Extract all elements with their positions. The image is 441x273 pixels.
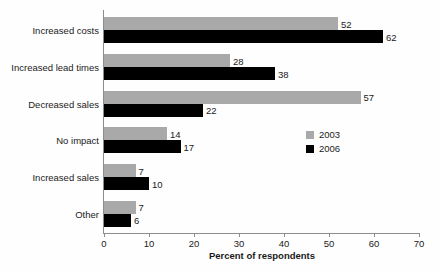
x-axis-tick-label: 20 [189,238,200,249]
category-label: Increased costs [32,25,99,36]
x-axis-title: Percent of respondents [104,250,420,261]
x-axis-tick [194,233,195,237]
bar-value-label: 52 [341,18,352,29]
x-axis-tick-label: 70 [414,238,425,249]
category-label: Increased lead times [11,62,99,73]
bar-2006: 62 [104,30,383,43]
bar-value-label: 10 [152,178,163,189]
chart-category-row: Other76 [104,201,419,227]
bar-value-label: 38 [278,68,289,79]
plot-area: Increased costs5262Increased lead times2… [104,12,419,232]
category-label: No impact [56,135,99,146]
legend-swatch-2003 [306,131,314,139]
x-axis-tick [284,233,285,237]
bar-value-label: 6 [134,215,139,226]
x-axis-tick [104,233,105,237]
x-axis-tick [149,233,150,237]
category-label: Other [75,208,99,219]
x-axis-tick-label: 10 [144,238,155,249]
x-axis-tick [419,233,420,237]
legend-item-2003: 2003 [306,129,340,141]
x-axis-tick-label: 0 [101,238,106,249]
x-axis-line [104,233,420,234]
legend-label-2006: 2006 [319,144,340,154]
x-axis-tick-label: 50 [324,238,335,249]
x-axis-tick-label: 40 [279,238,290,249]
bar-value-label: 57 [364,92,375,103]
bar-chart: Increased costs5262Increased lead times2… [0,0,441,273]
category-label: Increased sales [32,172,99,183]
bar-value-label: 14 [170,128,181,139]
chart-category-row: Increased costs5262 [104,17,419,43]
bar-value-label: 17 [184,141,195,152]
bar-2006: 38 [104,67,275,80]
category-label: Decreased sales [28,98,99,109]
bar-2006: 17 [104,140,181,153]
x-axis-tick-label: 60 [369,238,380,249]
chart-category-row: Increased lead times2838 [104,54,419,80]
bar-value-label: 22 [206,105,217,116]
bar-2006: 10 [104,177,149,190]
bar-2006: 6 [104,214,131,227]
x-axis-tick-label: 30 [234,238,245,249]
x-axis-tick [329,233,330,237]
legend-swatch-2006 [306,145,314,153]
bar-2003: 14 [104,127,167,140]
chart-category-row: Decreased sales5722 [104,91,419,117]
x-axis-tick [374,233,375,237]
legend-item-2006: 2006 [306,143,340,155]
chart-category-row: No impact1417 [104,127,419,153]
bar-value-label: 7 [139,202,144,213]
chart-category-row: Increased sales710 [104,164,419,190]
bar-value-label: 7 [139,165,144,176]
bar-value-label: 28 [233,55,244,66]
bar-2003: 52 [104,17,338,30]
x-axis-tick [239,233,240,237]
chart-legend: 2003 2006 [306,129,340,157]
bar-2003: 28 [104,54,230,67]
bar-2003: 57 [104,91,361,104]
bar-2003: 7 [104,164,136,177]
legend-label-2003: 2003 [319,130,340,140]
bar-2006: 22 [104,104,203,117]
bar-2003: 7 [104,201,136,214]
bar-value-label: 62 [386,31,397,42]
